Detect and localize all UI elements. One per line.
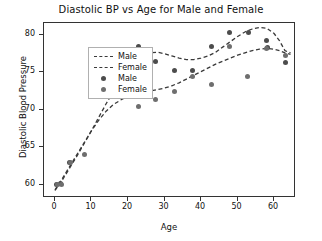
legend-marker-swatch: [101, 87, 106, 92]
legend-key-marker: [93, 73, 113, 84]
x-tick: [273, 197, 274, 201]
x-tick-label: 0: [39, 202, 69, 211]
data-point-female: [136, 104, 141, 109]
y-tick-label: 70: [5, 104, 35, 113]
legend-line-swatch: [94, 67, 113, 68]
chart-figure: Diastolic BP vs Age for Male and Female …: [0, 0, 322, 241]
legend-label: Male: [118, 74, 137, 83]
legend-label: Female: [118, 63, 147, 72]
plot-area: MaleFemaleMaleFemale: [43, 22, 295, 197]
legend-line-swatch: [94, 56, 113, 57]
x-tick-label: 50: [222, 202, 252, 211]
plot-clip: [44, 23, 294, 196]
legend-key-line: [93, 62, 113, 73]
data-point-female: [209, 82, 214, 87]
x-axis-label: Age: [43, 222, 295, 232]
x-tick: [200, 197, 201, 201]
x-tick: [90, 197, 91, 201]
trend-lines: [44, 23, 294, 196]
legend-item: Female: [93, 84, 147, 95]
y-tick-label: 75: [5, 66, 35, 75]
data-point-male: [264, 38, 269, 43]
y-tick-label: 60: [5, 179, 35, 188]
legend-label: Male: [118, 52, 137, 61]
legend-item: Female: [93, 62, 147, 73]
legend-label: Female: [118, 85, 147, 94]
x-tick: [237, 197, 238, 201]
data-point-male: [283, 60, 288, 65]
legend-marker-swatch: [101, 76, 106, 81]
x-tick: [164, 197, 165, 201]
legend-item: Male: [93, 73, 147, 84]
data-point-female: [283, 53, 288, 58]
y-tick-label: 65: [5, 141, 35, 150]
x-tick-label: 20: [112, 202, 142, 211]
x-tick-label: 10: [75, 202, 105, 211]
chart-title: Diastolic BP vs Age for Male and Female: [0, 4, 322, 15]
legend-item: Male: [93, 51, 147, 62]
x-tick: [127, 197, 128, 201]
x-tick-label: 60: [258, 202, 288, 211]
x-tick-label: 40: [185, 202, 215, 211]
y-tick-label: 80: [5, 29, 35, 38]
data-point-male: [172, 68, 177, 73]
x-tick-label: 30: [149, 202, 179, 211]
chart-legend: MaleFemaleMaleFemale: [88, 47, 153, 99]
legend-key-line: [93, 51, 113, 62]
legend-key-marker: [93, 84, 113, 95]
data-point-male: [190, 68, 195, 73]
data-point-female: [190, 74, 195, 79]
x-tick: [54, 197, 55, 201]
data-point-female: [82, 152, 87, 157]
